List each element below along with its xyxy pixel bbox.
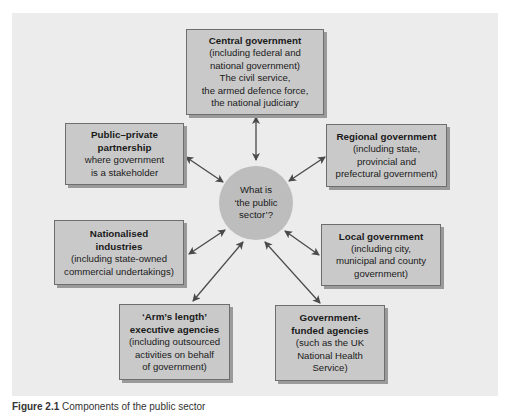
node-text: of government) [122,361,227,374]
node-local-government: Local government (including city, munici… [321,224,441,286]
node-text: (including city, [324,243,438,256]
node-text: where government [68,154,181,167]
node-text: (including federal and [189,47,321,60]
node-title: Local government [324,230,438,243]
node-regional-government: Regional government (including state, pr… [326,124,447,187]
node-arms-length-agencies: ‘Arm’s length’ executive agencies (inclu… [119,304,230,380]
node-title: ‘Arm’s length’ [122,310,227,323]
node-text: National Health [278,350,382,363]
node-text: government) [324,268,438,281]
center-text: ‘the public [234,197,277,210]
node-title: executive agencies [122,323,227,336]
node-text: the national judiciary [189,97,321,110]
node-text: activities on behalf [122,349,227,362]
arrow-government-funded [265,242,320,303]
center-node-public-sector: What is ‘the public sector’? [219,166,293,240]
figure-caption: Figure 2.1 Components of the public sect… [12,401,205,412]
node-government-funded-agencies: Government- funded agencies (such as the… [275,305,385,381]
node-text: The civil service, [189,72,321,85]
node-text: is a stakeholder [68,167,181,180]
center-text: sector’? [234,209,277,222]
arrow-regional [289,157,325,181]
arrow-local [285,231,319,255]
node-title: Regional government [329,130,444,143]
node-title: Nationalised [57,227,181,240]
node-text: the armed defence force, [189,85,321,98]
node-text: Service) [278,362,382,375]
center-text: What is [234,184,277,197]
node-title: Central government [189,34,321,47]
caption-text: Components of the public sector [62,401,205,412]
node-text: (such as the UK [278,337,382,350]
node-text: municipal and county [324,255,438,268]
node-text: (including outsourced [122,336,227,349]
node-title: partnership [68,141,181,154]
node-text: prefectural government) [329,168,444,181]
node-title: industries [57,240,181,253]
node-text: (including state, [329,143,444,156]
node-nationalised-industries: Nationalised industries (including state… [54,220,184,285]
caption-label: Figure 2.1 [12,401,59,412]
arrow-nationalised [189,230,225,254]
arrow-public-private [186,157,223,182]
node-title: funded agencies [278,324,382,337]
node-text: (including state-owned [57,253,181,266]
node-text: national government) [189,60,321,73]
node-public-private-partnership: Public–private partnership where governm… [65,123,184,185]
arrow-arms-length [193,242,243,301]
node-title: Public–private [68,128,181,141]
node-title: Government- [278,311,382,324]
node-text: provincial and [329,156,444,169]
node-central-government: Central government (including federal an… [186,29,324,115]
node-text: commercial undertakings) [57,266,181,279]
